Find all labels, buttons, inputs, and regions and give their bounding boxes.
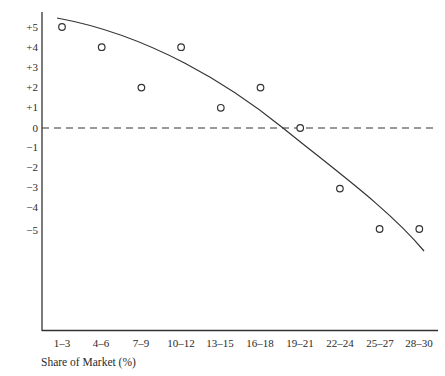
y-tick-label: −5 bbox=[8, 224, 38, 236]
x-tick-label: 19–21 bbox=[280, 337, 320, 349]
x-tick-label: 22–24 bbox=[320, 337, 360, 349]
x-axis-title: Share of Market (%) bbox=[41, 356, 136, 369]
x-tick-label: 4–6 bbox=[81, 337, 121, 349]
data-point bbox=[297, 125, 304, 132]
data-point bbox=[98, 44, 105, 51]
y-tick-label: +3 bbox=[8, 61, 38, 73]
x-tick-label: 28–30 bbox=[399, 337, 439, 349]
x-tick-label: 7–9 bbox=[121, 337, 161, 349]
y-tick-label: +5 bbox=[8, 21, 38, 33]
chart-plot-area bbox=[0, 0, 445, 376]
y-tick-label: −4 bbox=[8, 201, 38, 213]
y-tick-label: +1 bbox=[8, 101, 38, 113]
data-point bbox=[337, 185, 344, 192]
data-point bbox=[218, 105, 225, 112]
x-tick-label: 1–3 bbox=[42, 337, 82, 349]
y-tick-label: −1 bbox=[8, 141, 38, 153]
data-point bbox=[376, 226, 383, 233]
y-tick-label: −3 bbox=[8, 181, 38, 193]
x-tick-label: 10–12 bbox=[161, 337, 201, 349]
x-tick-label: 13–15 bbox=[200, 337, 240, 349]
data-point bbox=[138, 84, 145, 91]
y-tick-label: −2 bbox=[8, 161, 38, 173]
data-point bbox=[59, 24, 66, 31]
x-tick-label: 25–27 bbox=[360, 337, 400, 349]
y-tick-label: 0 bbox=[8, 122, 38, 134]
y-tick-label: +2 bbox=[8, 81, 38, 93]
y-tick-label: +4 bbox=[8, 41, 38, 53]
data-point bbox=[257, 84, 264, 91]
data-point bbox=[178, 44, 185, 51]
data-point bbox=[416, 226, 423, 233]
x-tick-label: 16–18 bbox=[240, 337, 280, 349]
trend-curve bbox=[57, 18, 424, 251]
